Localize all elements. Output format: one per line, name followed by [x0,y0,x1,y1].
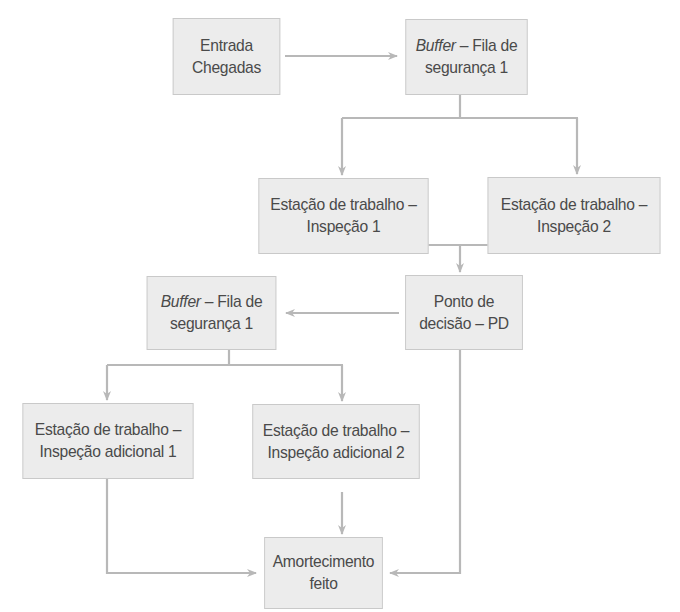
connectors [0,0,680,612]
node-insp1: Estação de trabalho – Inspeção 1 [258,178,428,254]
arrow-buffer1-split [342,95,578,118]
node-text: – Fila de [201,292,263,311]
node-text: Estação de trabalho – [270,194,416,216]
node-text: Entrada [192,35,261,57]
node-text: Ponto de [419,291,509,313]
node-text: Estação de trabalho – [35,419,181,441]
node-text: Chegadas [192,57,261,79]
node-text-italic: Buffer [161,292,201,311]
node-text: Estação de trabalho – [263,420,409,442]
node-text: Estação de trabalho – [501,194,647,216]
node-adic1: Estação de trabalho – Inspeção adicional… [22,403,193,479]
node-text: decisão – PD [419,313,509,335]
node-text: segurança 1 [161,313,263,335]
node-text: – Fila de [456,36,518,55]
node-amortecimento: Amortecimento feito [264,537,383,609]
node-adic2: Estação de trabalho – Inspeção adicional… [252,404,419,479]
node-buffer2: Buffer – Fila de segurança 1 [147,276,277,350]
node-text-italic: Buffer [416,36,456,55]
node-text: Amortecimento [273,551,375,573]
node-insp2: Estação de trabalho – Inspeção 2 [488,177,661,254]
node-text: feito [273,573,375,595]
node-text: Inspeção adicional 1 [35,441,181,463]
node-text: Inspeção adicional 2 [263,442,409,464]
node-pd: Ponto de decisão – PD [405,275,523,350]
arrow-adic1-amort [107,479,256,573]
node-text: segurança 1 [416,57,518,79]
node-entrada: Entrada Chegadas [173,18,281,95]
node-text: Inspeção 1 [270,216,416,238]
node-text: Inspeção 2 [501,216,647,238]
node-buffer1: Buffer – Fila de segurança 1 [405,19,527,95]
